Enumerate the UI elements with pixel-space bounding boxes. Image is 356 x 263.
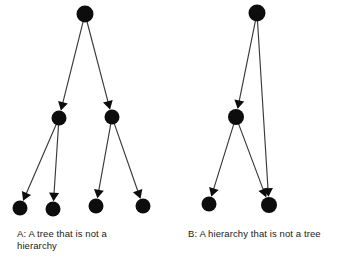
- node-a-mid-left: [52, 111, 67, 126]
- edge-b-mid-to-b-leaf-right: [238, 121, 268, 197]
- node-a-leaf-4: [136, 199, 151, 214]
- edge-line: [113, 121, 140, 198]
- edge-line: [238, 121, 266, 196]
- arrowhead: [49, 192, 59, 201]
- edge-b-mid-to-b-leaf-left: [209, 121, 235, 196]
- edge-a-root-to-a-mid-left: [58, 19, 84, 111]
- edge-a-mid-left-to-a-leaf-2: [49, 122, 59, 201]
- edge-line: [257, 18, 268, 196]
- arrowhead: [94, 189, 104, 198]
- edge-line: [61, 19, 84, 110]
- node-a-leaf-3: [89, 199, 104, 214]
- node-b-leaf-right: [261, 197, 277, 213]
- edge-a-mid-left-to-a-leaf-1: [22, 122, 57, 201]
- node-b-root: [249, 5, 266, 22]
- edge-line: [54, 122, 59, 200]
- node-b-leaf-left: [202, 197, 217, 212]
- graph-canvas: [0, 0, 356, 263]
- diagram-figure: A: A tree that is not a hierarchy B: A h…: [0, 0, 356, 263]
- node-a-leaf-1: [13, 201, 28, 216]
- arrowhead: [58, 101, 68, 110]
- edge-line: [98, 121, 112, 197]
- edge-a-root-to-a-mid-right: [86, 19, 113, 110]
- node-a-leaf-2: [46, 202, 61, 217]
- arrowhead: [234, 100, 244, 109]
- edge-line: [24, 122, 58, 200]
- edge-b-root-to-b-mid: [234, 18, 256, 109]
- edge-b-root-to-b-leaf-right: [257, 18, 273, 197]
- edge-a-mid-right-to-a-leaf-4: [113, 121, 142, 199]
- node-a-root: [77, 6, 94, 23]
- caption-panel-b: B: A hierarchy that is not a tree: [188, 228, 353, 240]
- edge-line: [212, 121, 235, 195]
- edge-line: [86, 19, 110, 109]
- edge-line: [238, 18, 256, 108]
- edge-a-mid-right-to-a-leaf-3: [94, 121, 111, 198]
- node-b-mid: [228, 109, 244, 125]
- caption-panel-a: A: A tree that is not a hierarchy: [17, 228, 147, 252]
- node-a-mid-right: [105, 110, 120, 125]
- nodes-layer: [13, 5, 278, 217]
- arrowhead: [103, 100, 113, 109]
